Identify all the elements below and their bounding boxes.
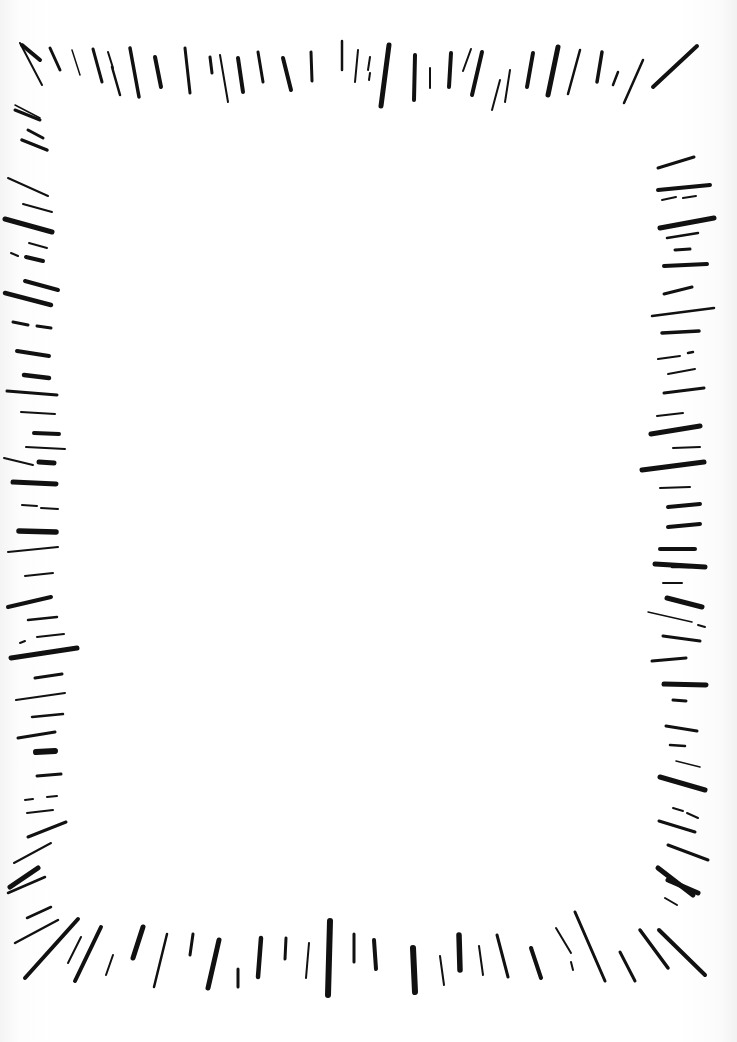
ink-stroke (21, 412, 55, 414)
ink-stroke (658, 185, 710, 190)
ink-stroke (26, 257, 43, 261)
ink-stroke (660, 777, 705, 790)
ink-stroke (25, 573, 53, 576)
ink-stroke (24, 375, 49, 378)
ink-stroke (311, 52, 312, 81)
ink-stroke (39, 462, 54, 463)
ink-stroke (620, 952, 635, 981)
ink-stroke (575, 912, 605, 981)
ink-stroke (37, 774, 61, 776)
ink-stroke (668, 524, 700, 527)
ink-stroke (106, 955, 113, 975)
ink-stroke (8, 178, 48, 196)
ink-stroke (22, 505, 37, 506)
ink-stroke (8, 547, 58, 552)
ink-stroke (283, 58, 291, 90)
ink-stroke (463, 49, 471, 71)
ink-stroke (27, 907, 51, 918)
ink-stroke (22, 140, 47, 150)
ink-stroke (571, 962, 573, 970)
ink-stroke (660, 487, 690, 488)
ink-stroke (355, 50, 358, 82)
ink-stroke (306, 943, 309, 978)
blank-center-area (90, 150, 650, 910)
ink-stroke (20, 641, 25, 643)
ink-stroke (23, 204, 52, 212)
ink-stroke (20, 43, 42, 85)
ink-stroke (664, 264, 707, 266)
ink-stroke (497, 935, 508, 977)
ink-stroke (285, 938, 286, 959)
ink-stroke (505, 70, 510, 102)
ink-stroke (472, 52, 482, 95)
page: Hand-drawn radial stroke frame (0, 0, 737, 1042)
frame-left-strokes (4, 105, 77, 943)
ink-stroke (112, 67, 120, 95)
ink-stroke (10, 868, 38, 887)
ink-stroke (238, 58, 243, 92)
ink-stroke (258, 52, 263, 82)
ink-stroke (658, 356, 680, 359)
ink-stroke (75, 927, 101, 981)
ink-stroke (4, 458, 33, 465)
ink-stroke (328, 921, 330, 995)
ink-stroke (190, 934, 193, 955)
ink-stroke (369, 73, 370, 80)
ink-stroke (664, 684, 706, 685)
ink-stroke (668, 369, 695, 374)
ink-stroke (185, 48, 190, 93)
ink-stroke (449, 53, 451, 87)
ink-stroke (28, 130, 43, 138)
ink-stroke (258, 938, 261, 977)
ink-stroke (37, 634, 64, 637)
ink-stroke (531, 948, 541, 978)
ink-stroke (16, 693, 65, 700)
ink-stroke (662, 197, 676, 200)
ink-stroke (220, 55, 228, 102)
ink-stroke (440, 956, 444, 985)
ink-stroke (8, 597, 51, 607)
ink-stroke (374, 940, 376, 969)
ink-stroke (37, 326, 51, 328)
ink-stroke (613, 72, 618, 85)
ink-stroke (667, 598, 702, 607)
ink-stroke (18, 732, 55, 738)
ink-stroke (659, 930, 705, 975)
ink-stroke (50, 48, 60, 70)
ink-stroke (34, 433, 59, 434)
ink-stroke (41, 508, 58, 509)
ink-stroke (208, 940, 219, 988)
ink-stroke (28, 617, 57, 620)
ink-stroke (5, 293, 51, 305)
ink-stroke (13, 482, 56, 484)
ink-stroke (25, 919, 78, 978)
ink-stroke (381, 45, 389, 106)
ink-stroke (29, 243, 47, 248)
ink-stroke (660, 218, 714, 228)
ink-stroke (676, 761, 700, 767)
ink-stroke (688, 352, 693, 353)
ink-stroke (665, 898, 677, 905)
ink-stroke (658, 868, 693, 895)
ink-stroke (17, 351, 49, 356)
ink-stroke (11, 253, 18, 256)
ink-stroke (414, 55, 415, 100)
ink-stroke (68, 937, 81, 963)
ink-stroke (35, 674, 62, 678)
frame-right-strokes (642, 157, 714, 895)
ink-stroke (687, 813, 698, 818)
ink-stroke (36, 751, 55, 752)
ink-stroke (492, 80, 500, 110)
ink-stroke (659, 821, 695, 832)
ink-stroke (648, 612, 692, 622)
ink-stroke (5, 219, 52, 232)
ink-stroke (13, 322, 28, 325)
ink-stroke (19, 531, 56, 532)
ink-stroke (664, 287, 692, 294)
ink-stroke (556, 928, 571, 953)
ink-stroke (662, 331, 699, 333)
ink-stroke (666, 726, 697, 731)
ink-stroke (154, 934, 167, 987)
ink-stroke (130, 48, 139, 97)
ink-stroke (15, 920, 58, 943)
